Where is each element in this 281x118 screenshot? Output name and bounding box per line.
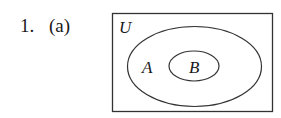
universe-label: U	[119, 18, 133, 37]
set-b-label: B	[189, 58, 200, 77]
venn-diagram: U A B	[0, 0, 281, 118]
set-a-label: A	[141, 58, 153, 77]
